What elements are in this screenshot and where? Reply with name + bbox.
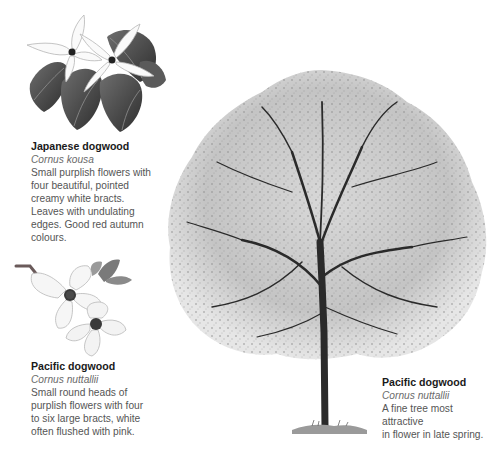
common-name: Pacific dogwood [31, 360, 166, 373]
pacific-dogwood-flower-caption: Pacific dogwood Cornus nuttallii Small r… [31, 360, 166, 438]
pacific-dogwood-flower-illustration [12, 252, 142, 360]
description-line: often flushed with pink. [31, 425, 166, 438]
description-line: purplish flowers with four [31, 399, 166, 412]
japanese-dogwood-illustration [22, 12, 172, 137]
description-line: edges. Good red autumn [31, 218, 166, 231]
description-line: creamy white bracts. [31, 192, 166, 205]
common-name: Japanese dogwood [31, 140, 166, 153]
common-name: Pacific dogwood [382, 376, 495, 389]
latin-name: Cornus nuttallii [31, 373, 166, 386]
description-line: four beautiful, pointed [31, 179, 166, 192]
pacific-dogwood-tree-caption: Pacific dogwood Cornus nuttallii A fine … [382, 376, 495, 441]
description-line: Leaves with undulating [31, 205, 166, 218]
description-line: Small round heads of [31, 386, 166, 399]
description-line: A fine tree most attractive [382, 402, 495, 428]
description-line: Small purplish flowers with [31, 166, 166, 179]
description-line: in flower in late spring. [382, 428, 495, 441]
description-line: to six large bracts, white [31, 412, 166, 425]
latin-name: Cornus nuttallii [382, 389, 495, 402]
japanese-dogwood-caption: Japanese dogwood Cornus kousa Small purp… [31, 140, 166, 244]
latin-name: Cornus kousa [31, 153, 166, 166]
description-line: colours. [31, 231, 166, 244]
